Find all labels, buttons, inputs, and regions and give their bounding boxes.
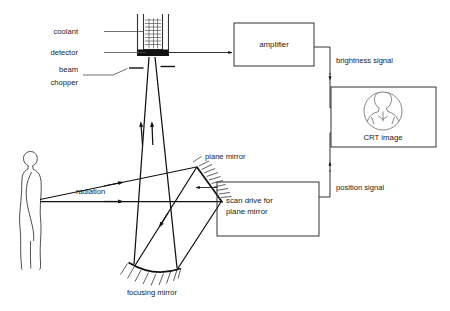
detector-assembly	[138, 14, 169, 56]
detector-label: detector	[51, 48, 79, 57]
box-amplifier: amplifier	[234, 23, 314, 66]
scan-drive-label-line1: scan drive for	[226, 196, 273, 205]
coolant-fill	[145, 19, 161, 49]
box-scan-drive: scan drive for plane mirror	[217, 182, 319, 236]
subject-figure	[20, 152, 42, 270]
amplifier-label: amplifier	[259, 40, 289, 49]
diagram-canvas: amplifier	[0, 0, 450, 311]
scan-drive-label-line2: plane mirror	[226, 207, 268, 216]
plane-mirror-leader	[193, 157, 202, 163]
beam-chopper	[129, 67, 175, 69]
crt-image-label: CRT image	[363, 133, 402, 142]
focusing-mirror	[121, 263, 182, 286]
radiation-label: radiation	[76, 187, 105, 196]
signal-brightness	[314, 47, 331, 108]
brightness-signal-label: brightness signal	[336, 56, 393, 65]
signal-position	[319, 133, 331, 197]
coolant-label: coolant	[54, 27, 79, 36]
beam-chopper-label-line2: chopper	[51, 78, 79, 87]
position-signal-label: position signal	[336, 183, 384, 192]
focusing-mirror-label: focusing mirror	[127, 288, 178, 297]
plane-mirror-label: plane mirror	[205, 152, 246, 161]
box-crt-image: CRT image	[331, 87, 436, 147]
converging-rays-to-detector	[134, 57, 177, 268]
beam-chopper-label-line1: beam	[59, 65, 78, 74]
crt-thermogram	[364, 92, 402, 132]
thermography-diagram: amplifier	[0, 0, 450, 311]
